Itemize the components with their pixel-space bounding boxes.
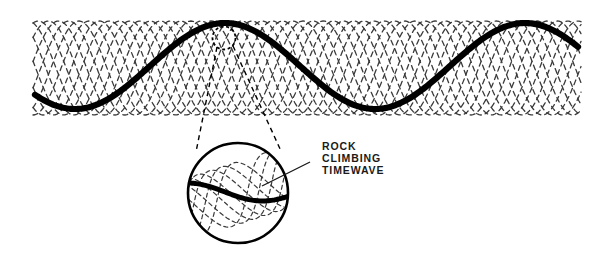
callout-line-1: ROCK	[322, 140, 384, 152]
magnified-lattice-wave	[156, 141, 319, 245]
callout-line-3: TIMEWAVE	[322, 164, 384, 176]
magnified-lattice-wave	[156, 141, 319, 245]
callout-label: ROCK CLIMBING TIMEWAVE	[322, 140, 384, 177]
magnified-circle-outline	[188, 143, 288, 243]
magnifier-cone-lines	[196, 46, 281, 152]
magnified-lattice-wave	[156, 141, 319, 245]
magnified-circle-view	[156, 141, 319, 245]
callout-line-2: CLIMBING	[322, 152, 384, 164]
diagram-canvas	[0, 0, 602, 256]
magnified-lattice-wave	[156, 141, 319, 245]
magnified-lattice-wave	[156, 141, 319, 245]
magnified-lattice-group	[156, 141, 319, 245]
timewave-diagram: ROCK CLIMBING TIMEWAVE	[0, 0, 602, 256]
magnified-lattice-wave	[156, 141, 319, 245]
magnified-lattice-wave	[156, 141, 319, 245]
background-lattice-waves	[33, 21, 581, 115]
magnified-contents	[156, 141, 319, 245]
